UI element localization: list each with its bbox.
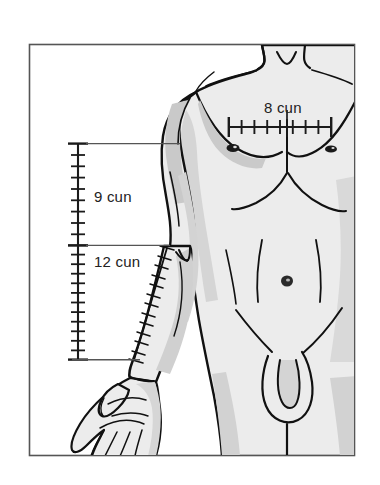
penis-shape [278,360,300,408]
nipple-left-icon [227,144,240,152]
nipple-right-icon [325,145,337,152]
nipple-left-highlight [233,146,237,148]
chest-cun-label: 8 cun [264,99,302,116]
forearm-cun-label: 12 cun [94,253,140,270]
upper-arm-cun-label: 9 cun [94,188,132,205]
cun-measurement-figure: 8 cun 9 cun [0,0,380,485]
anatomical-diagram-svg: 8 cun 9 cun [0,0,380,485]
nipple-right-highlight [331,147,334,149]
navel-highlight [286,278,290,281]
